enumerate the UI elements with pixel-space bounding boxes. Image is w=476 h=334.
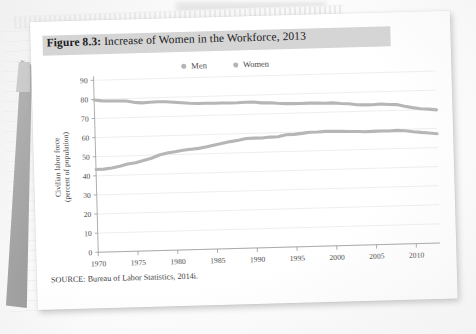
x-tick-label: 1975: [131, 258, 147, 267]
y-tick-label: 90: [80, 76, 88, 85]
y-axis-title-line-2: (percent of population): [61, 131, 72, 202]
chart-plot-area: 0102030405060708090197019751980198519901…: [30, 11, 458, 310]
y-axis-line: [93, 76, 98, 252]
x-tick-label: 1970: [91, 259, 107, 268]
gridline: [97, 186, 439, 195]
y-tick-label: 50: [82, 153, 90, 162]
gridline: [96, 167, 438, 176]
x-tick-label: 1995: [290, 254, 306, 263]
gridline: [95, 109, 437, 118]
x-tick-label: 1980: [170, 257, 186, 266]
y-tick-label: 0: [88, 248, 92, 257]
gridline: [96, 147, 438, 156]
y-tick-label: 70: [81, 114, 89, 123]
y-tick-label: 20: [84, 210, 92, 219]
gridline: [98, 224, 440, 233]
x-tick-label: 1990: [250, 255, 266, 264]
gridline: [94, 90, 436, 99]
y-tick-label: 60: [81, 133, 89, 142]
line-chart: 0102030405060708090197019751980198519901…: [30, 11, 458, 310]
y-tick-label: 80: [80, 95, 88, 104]
y-tick-label: 10: [84, 229, 92, 238]
x-tick-label: 2000: [329, 253, 345, 262]
figure-page: Figure 8.3: Increase of Women in the Wor…: [30, 11, 458, 310]
x-tick-label: 1985: [210, 256, 226, 265]
y-tick-label: 40: [82, 172, 90, 181]
x-axis-line: [98, 243, 440, 252]
y-tick-label: 30: [83, 191, 91, 200]
x-tick-label: 2010: [409, 250, 425, 259]
x-tick-label: 2005: [369, 251, 385, 260]
gridline: [97, 205, 439, 214]
gridline: [94, 71, 436, 80]
